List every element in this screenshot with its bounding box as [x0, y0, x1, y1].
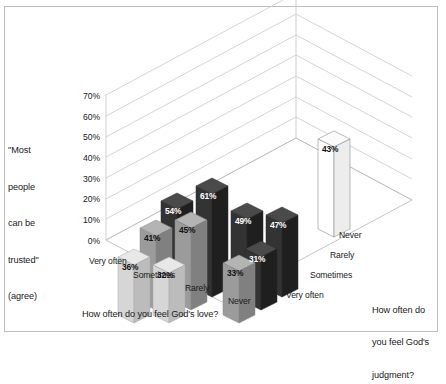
bar-label-36: 36%	[122, 262, 138, 272]
y-axis-title: "Most people can be trusted" (agree)	[8, 120, 66, 326]
bar-33	[223, 255, 255, 323]
z-axis-title-line-2: you feel God's	[372, 337, 444, 348]
bar-label-33: 33%	[227, 268, 243, 278]
x-category-never: Never	[228, 296, 250, 306]
y-tick-70: 70%	[70, 91, 100, 101]
bar-label-54: 54%	[165, 206, 181, 216]
bar-label-49: 49%	[235, 216, 251, 226]
y-tick-20: 20%	[70, 194, 100, 204]
y-axis-title-line-5: (agree)	[8, 290, 66, 302]
y-tick-50: 50%	[70, 132, 100, 142]
y-tick-0: 0%	[70, 236, 100, 246]
z-axis-title-line-1: How often do	[372, 305, 444, 316]
z-axis-title-line-3: judgment?	[372, 370, 444, 381]
y-tick-60: 60%	[70, 112, 100, 122]
y-axis-title-line-2: people	[8, 181, 66, 193]
bar-label-43: 43%	[322, 144, 338, 154]
z-axis-title: How often do you feel God's judgment?	[372, 283, 444, 384]
x-axis-title: How often do you feel God's love?	[82, 309, 218, 320]
z-category-never: Never	[339, 230, 361, 240]
bar-label-31: 31%	[249, 254, 265, 264]
y-tick-40: 40%	[70, 153, 100, 163]
bar-label-61: 61%	[200, 191, 216, 201]
y-axis-title-line-1: "Most	[8, 144, 66, 156]
y-axis-title-line-4: trusted"	[8, 254, 66, 266]
z-category-rarely: Rarely	[330, 250, 354, 260]
bar-label-45: 45%	[179, 225, 195, 235]
z-category-very-often: Very often	[286, 290, 324, 300]
bar-label-32: 32%	[157, 270, 173, 280]
x-category-rarely: Rarely	[185, 283, 209, 293]
y-tick-10: 10%	[70, 215, 100, 225]
y-tick-30: 30%	[70, 174, 100, 184]
bar-label-41: 41%	[144, 233, 160, 243]
bar-label-47: 47%	[270, 220, 286, 230]
z-category-sometimes: Sometimes	[310, 270, 352, 280]
y-axis-title-line-3: can be	[8, 217, 66, 229]
gridlines-group	[106, 0, 412, 240]
